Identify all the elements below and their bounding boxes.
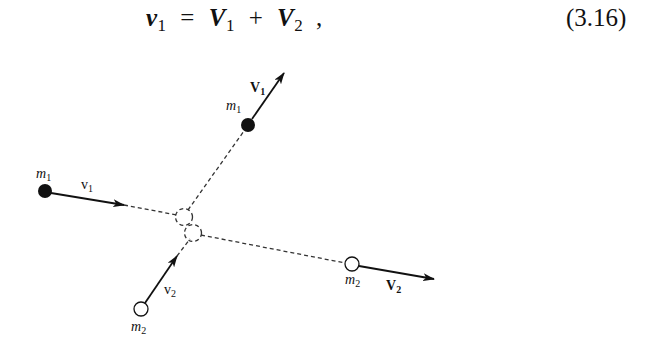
- ball-m2-final-icon: [345, 257, 359, 271]
- dashed-line-m2-incoming: [177, 239, 190, 256]
- dashed-line-m2-outgoing: [201, 235, 345, 263]
- dashed-trajectories: [124, 131, 345, 263]
- collision-diagram: m1 V1 m1 v1 v2 m2 m2 V2: [0, 0, 651, 363]
- collision-position-m1-icon: [176, 209, 193, 226]
- ball-m1-initial-icon: [38, 184, 52, 198]
- label-m2-right: m2: [345, 272, 360, 289]
- label-m1-top: m1: [226, 98, 241, 115]
- ball-m1-final-icon: [241, 118, 255, 132]
- label-V1-top: V1: [250, 80, 265, 97]
- dashed-line-m1-outgoing: [188, 131, 244, 210]
- collision-position-m2-icon: [185, 225, 202, 242]
- label-v2-bottom: v2: [164, 282, 176, 299]
- ball-m2-initial-icon: [134, 302, 148, 316]
- label-m1-left: m1: [36, 166, 51, 183]
- label-m2-bottom: m2: [131, 319, 146, 336]
- velocity-arrows: [51, 73, 434, 303]
- arrow-v1-initial: [51, 193, 124, 205]
- dashed-line-m1-incoming: [124, 205, 177, 215]
- arrow-V2-final: [359, 266, 434, 279]
- label-v1-left: v1: [81, 177, 93, 194]
- label-V2-right: V2: [386, 278, 401, 295]
